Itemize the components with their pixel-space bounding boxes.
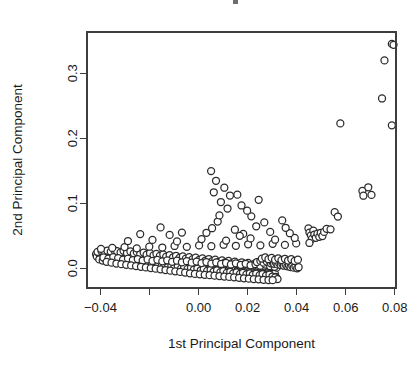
- x-tick-label: −0.04: [84, 300, 117, 315]
- data-point: [157, 224, 164, 231]
- data-point: [109, 244, 116, 251]
- data-point: [124, 238, 131, 245]
- plot-background: [0, 0, 417, 378]
- data-point: [209, 225, 216, 232]
- data-point: [365, 184, 372, 191]
- data-point: [272, 236, 279, 243]
- data-point: [282, 224, 289, 231]
- data-point: [267, 228, 274, 235]
- data-point: [236, 232, 243, 239]
- data-point: [224, 205, 231, 212]
- data-point: [217, 199, 224, 206]
- data-point: [381, 57, 388, 64]
- x-tick-label: 0.04: [284, 300, 309, 315]
- plot-title-group: [233, 0, 238, 4]
- data-point: [244, 207, 251, 214]
- data-point: [368, 191, 375, 198]
- data-point: [379, 95, 386, 102]
- data-point: [388, 122, 395, 129]
- data-point: [226, 192, 233, 199]
- data-point: [183, 243, 190, 250]
- data-point: [223, 237, 230, 244]
- data-point: [216, 212, 223, 219]
- data-point: [255, 196, 262, 203]
- data-point: [149, 236, 156, 243]
- data-point: [261, 219, 268, 226]
- data-point: [208, 243, 215, 250]
- clipped-title-fragment: [233, 0, 238, 4]
- data-point: [97, 245, 104, 252]
- data-point: [213, 177, 220, 184]
- data-point: [178, 229, 185, 236]
- data-point: [294, 256, 301, 263]
- y-tick-label: 0.2: [66, 129, 81, 147]
- data-point: [174, 238, 181, 245]
- pca-scatter-plot: −0.040.000.020.040.060.08 0.00.10.20.3 1…: [0, 0, 417, 378]
- data-point: [166, 231, 173, 238]
- data-point: [159, 244, 166, 251]
- x-tick-label: 0.06: [333, 300, 358, 315]
- data-point: [231, 226, 238, 233]
- data-point: [306, 239, 313, 246]
- data-point: [247, 235, 254, 242]
- x-tick-label: 0.02: [235, 300, 260, 315]
- x-tick-label: 0.00: [186, 300, 211, 315]
- data-point: [133, 245, 140, 252]
- y-tick-label: 0.3: [66, 64, 81, 82]
- x-tick-label: 0.08: [382, 300, 407, 315]
- data-point: [234, 191, 241, 198]
- data-point: [146, 243, 153, 250]
- data-point: [137, 231, 144, 238]
- data-point: [208, 168, 215, 175]
- data-point: [210, 189, 217, 196]
- data-point: [281, 241, 288, 248]
- data-point: [334, 213, 341, 220]
- data-point: [360, 192, 367, 199]
- data-point: [327, 226, 334, 233]
- data-point: [337, 120, 344, 127]
- data-point: [279, 217, 286, 224]
- data-point: [232, 242, 239, 249]
- data-point: [198, 236, 205, 243]
- data-point: [269, 277, 276, 284]
- y-axis-title: 2nd Principal Component: [10, 84, 25, 236]
- x-axis-title: 1st Principal Component: [168, 336, 315, 351]
- data-point: [221, 184, 228, 191]
- data-point: [253, 223, 260, 230]
- data-point: [238, 202, 245, 209]
- data-point: [257, 242, 264, 249]
- y-tick-label: 0.0: [66, 259, 81, 277]
- y-tick-label: 0.1: [66, 194, 81, 212]
- scatter-plot-page: −0.040.000.020.040.060.08 0.00.10.20.3 1…: [0, 0, 417, 378]
